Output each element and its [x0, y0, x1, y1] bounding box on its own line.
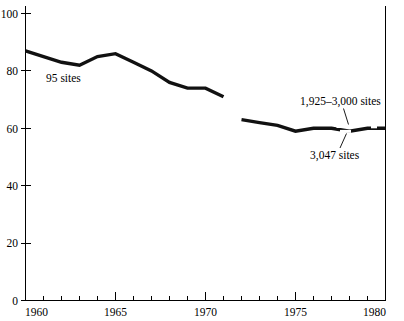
x-tick-label-1980: 1980	[363, 306, 386, 318]
y-tick-label-20: 20	[7, 237, 19, 249]
annotation-95-sites: 95 sites	[46, 72, 81, 84]
y-tick-label-100: 100	[1, 8, 19, 20]
y-tick-label-40: 40	[7, 180, 19, 192]
annotation-3047-sites-label: 3,047 sites	[310, 149, 360, 162]
y-tick-label-80: 80	[7, 65, 19, 77]
annotation-95-sites-label: 95 sites	[46, 72, 81, 84]
x-tick-label-1960: 1960	[25, 306, 48, 318]
y-tick-label-60: 60	[7, 123, 19, 135]
x-tick-label-1965: 1965	[104, 306, 127, 318]
annotation-sites-range-label: 1,925–3,000 sites	[300, 95, 381, 108]
line-chart-figure: 100 80 60 40 20 0	[0, 0, 404, 321]
y-tick-label-0: 0	[12, 295, 18, 307]
x-tick-label-1975: 1975	[284, 306, 307, 318]
chart-svg-canvas: 100 80 60 40 20 0	[0, 0, 404, 321]
x-tick-label-1970: 1970	[194, 306, 217, 318]
